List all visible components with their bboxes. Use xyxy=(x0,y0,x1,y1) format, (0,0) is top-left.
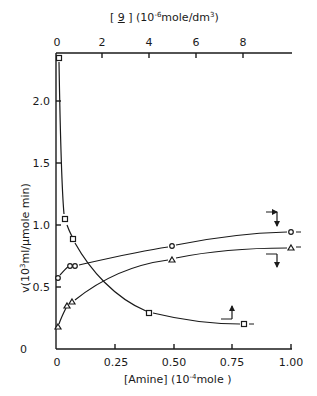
circles-axis-arrow-icon xyxy=(266,212,277,226)
fit-curves xyxy=(59,62,287,324)
squares-axis-arrow-icon xyxy=(221,306,232,319)
squares-curve xyxy=(59,62,240,324)
triangles-axis-arrow-icon xyxy=(266,254,277,267)
circles-curve xyxy=(60,232,287,275)
axes xyxy=(56,53,292,349)
circle-markers xyxy=(56,230,294,281)
triangle-markers xyxy=(55,245,294,329)
plot-area xyxy=(0,0,317,396)
square-markers xyxy=(57,56,247,327)
axis-indicator-arrows xyxy=(221,212,277,319)
